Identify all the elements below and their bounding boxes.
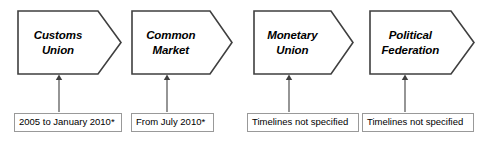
up-arrow-icon [400, 74, 410, 112]
connector-arrow-monetary-union [284, 74, 294, 112]
chevron-arrow-icon [369, 10, 475, 75]
chevron-arrow-icon [131, 10, 233, 75]
up-arrow-icon [54, 74, 64, 112]
stage-shape-common-market[interactable]: Common Market [131, 10, 233, 75]
stage-shape-political-federation[interactable]: Political Federation [369, 10, 475, 75]
note-common-market: From July 2010* [131, 113, 214, 132]
chevron-arrow-icon [17, 10, 122, 75]
note-political-federation: Timelines not specified [362, 113, 474, 132]
up-arrow-icon [284, 74, 294, 112]
chevron-arrow-icon [253, 10, 354, 75]
connector-arrow-common-market [162, 74, 172, 112]
integration-stages-diagram: Customs Union 2005 to January 2010* Comm… [0, 0, 484, 141]
note-monetary-union: Timelines not specified [247, 113, 359, 132]
up-arrow-icon [162, 74, 172, 112]
connector-arrow-customs-union [54, 74, 64, 112]
stage-shape-monetary-union[interactable]: Monetary Union [253, 10, 354, 75]
connector-arrow-political-federation [400, 74, 410, 112]
stage-shape-customs-union[interactable]: Customs Union [17, 10, 122, 75]
note-customs-union: 2005 to January 2010* [14, 113, 122, 132]
